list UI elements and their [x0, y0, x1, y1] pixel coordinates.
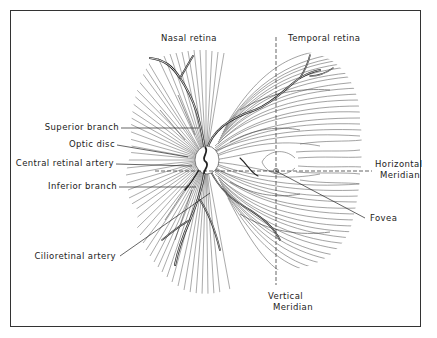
temporal-retina-label: Temporal retina: [288, 33, 360, 43]
optic-disc: [195, 146, 219, 174]
nasal-retina-label: Nasal retina: [161, 33, 217, 43]
horizontal-meridian-label-line1: Horizontal: [375, 159, 422, 169]
horizontal-meridian-label-line2: Meridian: [380, 170, 420, 180]
central-retinal-artery-label: Central retinal artery: [16, 158, 114, 168]
vertical-meridian-label-line2: Meridian: [273, 302, 313, 312]
vertical-meridian-label-line1: Vertical: [268, 291, 303, 301]
inferior-branch-label: Inferior branch: [48, 181, 117, 191]
optic-disc-label: Optic disc: [69, 139, 115, 149]
nerve-fiber-layer: [126, 50, 362, 296]
cilioretinal-artery-label: Cilioretinal artery: [34, 251, 116, 261]
retina-illustration: [0, 0, 437, 338]
superior-branch-label: Superior branch: [45, 122, 119, 132]
fovea-label: Fovea: [370, 213, 397, 223]
leader-lines: [116, 128, 365, 256]
